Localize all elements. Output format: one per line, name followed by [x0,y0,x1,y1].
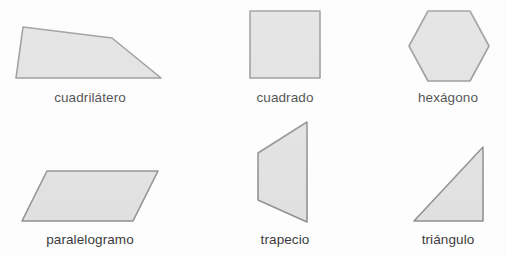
shape-cuadrado [250,11,320,78]
label-cuadrilatero: cuadrilátero [0,90,180,106]
shape-hexagono [409,11,489,81]
label-hexagono: hexágono [383,90,506,106]
shape-triangulo [414,147,483,221]
shapes-canvas [0,0,506,256]
label-cuadrado: cuadrado [220,90,350,106]
shape-paralelogramo [22,171,158,221]
label-triangulo: triángulo [383,232,506,248]
shape-trapecio [258,122,307,222]
shape-cuadrilatero [16,27,161,78]
label-paralelogramo: paralelogramo [0,232,180,248]
label-trapecio: trapecio [220,232,350,248]
figure-sheet: cuadrilátero cuadrado hexágono paralelog… [0,0,506,256]
